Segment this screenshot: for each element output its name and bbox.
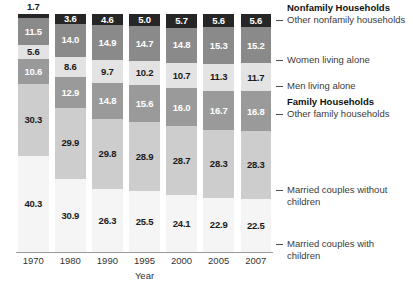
bar-segment: 26.3 (92, 189, 123, 252)
bar-segment-value: 5.6 (27, 47, 40, 57)
legend-entry-label: Married couples with children (287, 238, 409, 261)
bar-segment-value: 15.3 (210, 41, 228, 51)
bar-segment: 3.6 (55, 14, 86, 24)
leader-line-icon (276, 20, 283, 21)
bar-segment-value: 9.7 (101, 67, 114, 77)
bar-segment-value: 40.3 (24, 199, 42, 209)
bar-segment: 5.7 (166, 14, 197, 28)
bar-segment-value: 24.1 (173, 219, 191, 229)
bar-segment-value: 5.6 (212, 16, 225, 26)
bar-segment-value: 14.8 (173, 40, 191, 50)
bar-segment-value: 28.3 (247, 160, 265, 170)
legend-entry-label: Other family households (287, 108, 389, 120)
legend-entry: Married couples with children (276, 238, 409, 261)
bar-segment-value: 30.3 (24, 115, 42, 125)
leader-line-icon (276, 60, 283, 61)
bar-segment: 14.8 (92, 83, 123, 118)
bar-segment: 14.9 (92, 25, 123, 60)
bar-segment: 8.6 (55, 57, 86, 77)
bar-segment-value: 4.6 (101, 15, 114, 25)
legend-entry-label: Men living alone (287, 80, 356, 92)
bar-segment: 28.3 (203, 130, 234, 197)
x-tick-1995: 1995 (129, 255, 160, 266)
legend-entry: Men living alone (276, 80, 356, 92)
bar-segment: 16.7 (203, 91, 234, 131)
bar-1980: 30.929.912.98.614.03.6 (55, 14, 86, 252)
bar-segment-value: 25.5 (136, 217, 154, 227)
bar-segment-value: 10.2 (136, 68, 154, 78)
x-tick-2000: 2000 (166, 255, 197, 266)
leader-line-icon (276, 190, 283, 191)
bar-segment: 28.9 (129, 122, 160, 191)
x-tick-2005: 2005 (203, 255, 234, 266)
bar-segment: 12.9 (55, 77, 86, 108)
bar-segment-value: 11.3 (210, 72, 227, 82)
legend-entry: Other nonfamily households (276, 14, 405, 26)
bar-segment: 15.2 (241, 27, 272, 63)
bar-segment: 14.0 (55, 24, 86, 57)
bar-segment: 30.3 (18, 84, 49, 156)
bar-segment-value: 28.9 (136, 152, 154, 162)
leader-line-icon (276, 114, 283, 115)
bar-segment: 16.8 (241, 91, 272, 131)
bar-segment: 10.2 (129, 61, 160, 85)
chart-legend: Nonfamily HouseholdsFamily HouseholdsOth… (276, 0, 413, 293)
bar-segment: 9.7 (92, 60, 123, 83)
legend-entry: Women living alone (276, 54, 370, 66)
bar-segment-value: 28.7 (173, 156, 191, 166)
bar-segment: 14.8 (166, 28, 197, 63)
bar-segment-value: 15.2 (247, 41, 265, 51)
bar-2000: 24.128.716.010.714.85.7 (166, 14, 197, 252)
bar-segment-value: 30.9 (61, 211, 79, 221)
legend-entry-label: Other nonfamily households (287, 14, 405, 26)
bar-segment-value: 3.6 (64, 14, 77, 24)
bar-segment-value: 14.8 (99, 96, 117, 106)
bar-segment: 5.6 (18, 45, 49, 58)
bar-segment: 10.6 (18, 59, 49, 84)
bar-segment-value: 16.0 (173, 103, 191, 113)
bar-2005: 22.928.316.711.315.35.6 (203, 14, 234, 252)
bar-segment-value: 10.6 (24, 67, 42, 77)
bar-segment: 28.7 (166, 126, 197, 194)
plot-area: 40.330.310.65.611.51.730.929.912.98.614.… (18, 14, 271, 252)
bar-segment-value: 5.6 (249, 16, 262, 26)
bar-segment: 40.3 (18, 156, 49, 252)
bar-segment: 1.7 (18, 14, 49, 18)
bar-segment: 10.7 (166, 63, 197, 88)
bar-segment-value: 11.7 (247, 73, 264, 83)
bar-segment-value: 8.6 (64, 62, 77, 72)
stacked-bar-chart: 40.330.310.65.611.51.730.929.912.98.614.… (0, 0, 413, 293)
bar-segment: 29.9 (55, 108, 86, 179)
bar-segment-value: 14.0 (61, 35, 79, 45)
legend-entry-label: Married couples without children (287, 184, 409, 207)
bar-segment: 15.6 (129, 85, 160, 122)
legend-entry: Other family households (276, 108, 389, 120)
leader-line-icon (276, 244, 283, 245)
legend-heading: Family Households (287, 96, 374, 107)
bar-segment: 5.0 (129, 14, 160, 26)
legend-entry-label: Women living alone (287, 54, 370, 66)
bar-segment-value: 15.6 (136, 99, 154, 109)
leader-line-icon (276, 86, 283, 87)
x-tick-1970: 1970 (18, 255, 49, 266)
bar-segment: 14.7 (129, 26, 160, 61)
bar-segment-value: 10.7 (173, 71, 191, 81)
x-axis-title: Year (18, 270, 271, 281)
bar-segment-value: 28.3 (210, 159, 228, 169)
bar-segment: 5.6 (241, 14, 272, 27)
bar-segment-value: 14.9 (99, 38, 117, 48)
bar-segment: 22.9 (203, 198, 234, 252)
x-tick-2007: 2007 (241, 255, 272, 266)
bar-segment-value: 5.0 (138, 15, 151, 25)
bar-segment-value: 22.9 (210, 220, 228, 230)
bar-segment-value: 5.7 (175, 16, 188, 26)
bar-segment: 25.5 (129, 191, 160, 252)
bar-segment-value: 29.9 (61, 138, 79, 148)
bar-segment: 11.5 (18, 18, 49, 45)
bar-1995: 25.528.915.610.214.75.0 (129, 14, 160, 252)
bar-2007: 22.528.316.811.715.25.6 (241, 14, 272, 252)
bar-segment-value: 16.7 (210, 106, 228, 116)
x-axis-line (16, 252, 273, 253)
x-axis-tick-labels: 1970198019901995200020052007 (18, 255, 271, 269)
bar-segment: 28.3 (241, 131, 272, 198)
